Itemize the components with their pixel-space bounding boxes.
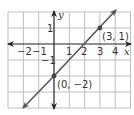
x-tick-label: 4 (112, 46, 118, 57)
x-axis-label: x (124, 46, 130, 57)
y-tick-label: −1 (41, 55, 56, 66)
x-tick-label: 2 (81, 46, 87, 57)
point-label-3-1: (3, 1) (102, 31, 129, 42)
x-tick-label: 1 (66, 46, 72, 57)
coordinate-graph: −2 −1 1 2 3 4 x 1 −1 y (3, 1) (0, −2) (0, 0, 134, 115)
y-tick-label: 1 (47, 23, 53, 34)
x-tick-label: 3 (97, 46, 103, 57)
point-3-1 (98, 26, 103, 31)
x-tick-label: −2 (17, 46, 32, 57)
point-0-m2 (52, 74, 57, 79)
y-axis-label: y (57, 9, 64, 20)
point-label-0-m2: (0, −2) (57, 79, 92, 90)
